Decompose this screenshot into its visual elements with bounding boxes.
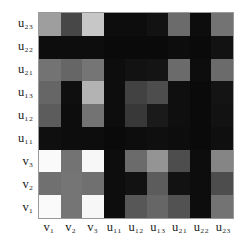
heatmap-cell <box>168 195 190 218</box>
heatmap-figure: u₂₃u₂₂u₂₁u₁₃u₁₂u₁₁v₃v₂v₁ v₁v₂v₃u₁₁u₁₂u₁₃… <box>0 0 247 246</box>
x-tick-label-text: u₂₃ <box>216 221 231 234</box>
heatmap-cell <box>61 172 83 195</box>
y-tick-label-text: u₂₁ <box>18 63 33 76</box>
heatmap-cell <box>211 13 233 36</box>
x-tick-u22: u₂₂ <box>190 221 212 245</box>
y-tick-v3: v₃ <box>0 150 36 173</box>
x-tick-label-text: u₂₁ <box>172 221 187 234</box>
x-tick-label-text: v₂ <box>65 221 76 234</box>
x-tick-v3: v₃ <box>82 221 104 245</box>
heatmap-cell <box>211 172 233 195</box>
heatmap-cell <box>211 36 233 59</box>
heatmap-cell <box>147 195 169 218</box>
x-tick-u23: u₂₃ <box>212 221 234 245</box>
heatmap-cell <box>168 81 190 104</box>
y-tick-u13: u₁₃ <box>0 81 36 104</box>
heatmap-cell <box>168 13 190 36</box>
x-tick-v1: v₁ <box>38 221 60 245</box>
y-tick-label-text: u₂₂ <box>18 40 33 53</box>
heatmap-cell <box>104 172 126 195</box>
heatmap-cell <box>168 104 190 127</box>
heatmap-cell <box>190 13 212 36</box>
heatmap-cell <box>39 150 61 173</box>
heatmap-cell <box>190 81 212 104</box>
heatmap-cell <box>190 127 212 150</box>
heatmap-cell <box>211 195 233 218</box>
heatmap-cell <box>168 36 190 59</box>
heatmap-plot-area <box>38 12 234 219</box>
heatmap-grid <box>39 13 233 218</box>
heatmap-cell <box>125 36 147 59</box>
heatmap-cell <box>168 150 190 173</box>
heatmap-cell <box>147 36 169 59</box>
heatmap-cell <box>61 104 83 127</box>
heatmap-cell <box>39 172 61 195</box>
y-tick-u22: u₂₂ <box>0 35 36 58</box>
heatmap-cell <box>82 59 104 82</box>
heatmap-cell <box>61 81 83 104</box>
y-tick-label-text: v₃ <box>22 155 33 168</box>
heatmap-cell <box>82 36 104 59</box>
heatmap-cell <box>82 104 104 127</box>
heatmap-cell <box>82 172 104 195</box>
heatmap-cell <box>39 195 61 218</box>
heatmap-cell <box>61 13 83 36</box>
heatmap-cell <box>125 127 147 150</box>
heatmap-cell <box>61 127 83 150</box>
heatmap-cell <box>125 150 147 173</box>
x-tick-u12: u₁₂ <box>125 221 147 245</box>
heatmap-cell <box>147 13 169 36</box>
heatmap-cell <box>125 195 147 218</box>
y-tick-u21: u₂₁ <box>0 58 36 81</box>
heatmap-cell <box>190 59 212 82</box>
heatmap-cell <box>125 59 147 82</box>
heatmap-cell <box>61 36 83 59</box>
heatmap-cell <box>39 81 61 104</box>
x-tick-label-text: u₂₂ <box>194 221 209 234</box>
x-tick-label-text: u₁₃ <box>150 221 165 234</box>
heatmap-cell <box>168 127 190 150</box>
heatmap-cell <box>147 172 169 195</box>
heatmap-cell <box>168 59 190 82</box>
y-tick-u23: u₂₃ <box>0 12 36 35</box>
heatmap-cell <box>39 59 61 82</box>
y-tick-label-text: u₁₃ <box>18 86 33 99</box>
y-tick-label-text: u₂₃ <box>18 17 33 30</box>
heatmap-cell <box>39 104 61 127</box>
heatmap-cell <box>104 104 126 127</box>
x-tick-label-text: v₁ <box>44 221 55 234</box>
heatmap-cell <box>125 13 147 36</box>
heatmap-cell <box>147 150 169 173</box>
y-tick-v2: v₂ <box>0 173 36 196</box>
x-tick-u11: u₁₁ <box>103 221 125 245</box>
heatmap-cell <box>82 81 104 104</box>
heatmap-cell <box>125 172 147 195</box>
y-tick-label-text: u₁₁ <box>18 132 33 145</box>
y-tick-label-text: v₁ <box>22 201 33 214</box>
y-axis-tick-labels: u₂₃u₂₂u₂₁u₁₃u₁₂u₁₁v₃v₂v₁ <box>0 12 36 219</box>
heatmap-cell <box>190 150 212 173</box>
heatmap-cell <box>190 195 212 218</box>
heatmap-cell <box>168 172 190 195</box>
heatmap-cell <box>82 150 104 173</box>
heatmap-cell <box>125 81 147 104</box>
x-tick-u21: u₂₁ <box>169 221 191 245</box>
heatmap-cell <box>61 150 83 173</box>
heatmap-cell <box>147 81 169 104</box>
x-tick-label-text: u₁₂ <box>129 221 144 234</box>
heatmap-cell <box>104 13 126 36</box>
heatmap-cell <box>190 104 212 127</box>
heatmap-cell <box>82 13 104 36</box>
heatmap-cell <box>82 195 104 218</box>
heatmap-cell <box>211 104 233 127</box>
heatmap-cell <box>82 127 104 150</box>
y-tick-u12: u₁₂ <box>0 104 36 127</box>
y-tick-v1: v₁ <box>0 196 36 219</box>
heatmap-cell <box>211 59 233 82</box>
heatmap-cell <box>211 150 233 173</box>
heatmap-cell <box>61 59 83 82</box>
heatmap-cell <box>104 81 126 104</box>
x-tick-label-text: u₁₁ <box>107 221 122 234</box>
heatmap-cell <box>39 13 61 36</box>
x-tick-label-text: v₃ <box>87 221 98 234</box>
